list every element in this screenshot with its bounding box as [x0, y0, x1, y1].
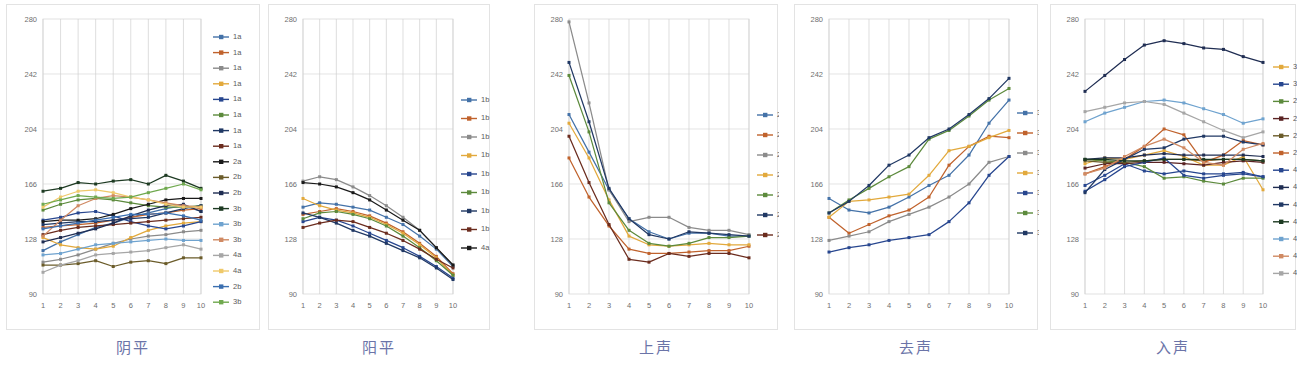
series-marker	[1143, 148, 1146, 151]
series-marker	[318, 175, 321, 178]
legend-entry[interactable]: 3a	[1017, 148, 1039, 157]
legend-swatch-marker	[467, 135, 471, 139]
legend-label: 4a	[1293, 268, 1297, 277]
legend-entry[interactable]: 2a	[757, 190, 779, 199]
legend-entry[interactable]: 2b	[1273, 114, 1297, 123]
legend-entry[interactable]: 4a	[461, 243, 490, 252]
legend-entry[interactable]: 1b	[461, 169, 489, 178]
legend-entry[interactable]: 4a	[1273, 251, 1297, 260]
legend-entry[interactable]: 2a	[757, 170, 779, 179]
legend-entry[interactable]: 3b	[213, 219, 241, 228]
legend-entry[interactable]: 3b	[213, 297, 241, 306]
y-axis-tick: 128	[284, 235, 297, 244]
legend-entry[interactable]: 4a	[1273, 217, 1297, 226]
series-marker	[1202, 161, 1205, 164]
legend-entry[interactable]: 4a	[1273, 165, 1297, 174]
legend-entry[interactable]: 3a	[1017, 168, 1039, 177]
legend-entry[interactable]: 4a	[1273, 200, 1297, 209]
legend-entry[interactable]: 2a	[757, 150, 779, 159]
legend-entry[interactable]: 1b	[461, 224, 489, 233]
y-axis-tick: 280	[550, 15, 563, 24]
legend-entry[interactable]: 3b	[213, 204, 241, 213]
series-marker	[402, 232, 405, 235]
series-marker	[568, 20, 571, 23]
legend-entry[interactable]: 1a	[213, 141, 242, 150]
legend-entry[interactable]: 2b	[213, 172, 241, 181]
series-marker	[728, 249, 731, 252]
series-marker	[1103, 112, 1106, 115]
chart-panel-rusheng: 28024220416612890123456789103b3b2b2b2b2b…	[1050, 4, 1296, 330]
legend-entry[interactable]: 1a	[213, 32, 242, 41]
legend-swatch-marker	[219, 144, 223, 148]
series-marker	[302, 181, 305, 184]
x-axis-tick: 10	[449, 301, 457, 310]
legend-entry[interactable]: 4a	[1273, 234, 1297, 243]
series-marker	[708, 252, 711, 255]
series-marker	[94, 188, 97, 191]
legend-entry[interactable]: 1a	[213, 79, 242, 88]
legend-entry[interactable]: 1a	[213, 94, 242, 103]
legend-entry[interactable]: 3a	[1017, 108, 1039, 117]
y-axis-tick: 128	[24, 235, 37, 244]
legend-entry[interactable]: 1b	[461, 150, 489, 159]
legend-entry[interactable]: 1a	[213, 48, 242, 57]
legend-entry[interactable]: 3b	[1273, 79, 1297, 88]
chart-svg-panel-rusheng: 28024220416612890123456789103b3b2b2b2b2b…	[1051, 5, 1297, 331]
legend-entry[interactable]: 2b	[213, 188, 241, 197]
legend-swatch-marker	[219, 284, 223, 288]
legend-entry[interactable]: 4a	[1273, 268, 1297, 277]
legend-entry[interactable]: 1b	[461, 206, 489, 215]
legend-entry[interactable]: 2b	[1273, 148, 1297, 157]
legend-entry[interactable]: 2a	[757, 110, 779, 119]
legend-entry[interactable]: 1b	[461, 95, 489, 104]
series-marker	[182, 256, 185, 259]
series-marker	[147, 239, 150, 242]
legend-entry[interactable]: 2a	[757, 230, 779, 239]
series-marker	[182, 230, 185, 233]
plot-background	[1085, 19, 1263, 294]
series-marker	[182, 217, 185, 220]
legend-entry[interactable]: 3a	[1017, 208, 1039, 217]
y-axis-tick: 242	[810, 70, 823, 79]
series-marker	[94, 243, 97, 246]
legend-entry[interactable]: 2b	[1273, 131, 1297, 140]
series-marker	[42, 227, 45, 230]
legend-entry[interactable]: 1a	[213, 126, 242, 135]
legend-swatch-marker	[1279, 220, 1283, 224]
legend-entry[interactable]: 1b	[461, 132, 489, 141]
series-marker	[402, 235, 405, 238]
legend-swatch-marker	[1279, 237, 1283, 241]
legend-entry[interactable]: 2a	[757, 130, 779, 139]
legend-entry[interactable]: 1a	[213, 63, 242, 72]
legend-swatch-marker	[467, 172, 471, 176]
legend-entry[interactable]: 3a	[1017, 228, 1039, 237]
series-marker	[1242, 172, 1245, 175]
legend-entry[interactable]: 2b	[213, 282, 241, 291]
series-marker	[728, 252, 731, 255]
legend-label: 4a	[233, 266, 242, 275]
legend-swatch-marker	[219, 253, 223, 257]
series-marker	[648, 233, 651, 236]
legend-entry[interactable]: 4a	[213, 266, 242, 275]
legend-entry[interactable]: 1b	[461, 113, 489, 122]
legend-entry[interactable]: 1b	[461, 187, 489, 196]
x-axis-tick: 3	[1122, 301, 1126, 310]
x-axis-tick: 7	[146, 301, 150, 310]
legend-entry[interactable]: 2a	[213, 157, 242, 166]
x-axis-tick: 5	[907, 301, 911, 310]
legend-entry[interactable]: 4a	[1273, 182, 1297, 191]
legend-entry[interactable]: 2b	[1273, 96, 1297, 105]
legend-entry[interactable]: 1a	[213, 110, 242, 119]
legend-entry[interactable]: 3b	[213, 235, 241, 244]
legend-entry[interactable]: 3a	[1017, 128, 1039, 137]
legend-entry[interactable]: 2a	[757, 210, 779, 219]
series-marker	[42, 271, 45, 274]
series-marker	[112, 242, 115, 245]
series-marker	[828, 211, 831, 214]
legend-entry[interactable]: 3a	[1017, 188, 1039, 197]
legend-swatch-marker	[219, 238, 223, 242]
legend-entry[interactable]: 4a	[213, 250, 242, 259]
legend-swatch-marker	[763, 193, 767, 197]
legend-label: 1b	[481, 95, 489, 104]
legend-entry[interactable]: 3b	[1273, 62, 1297, 71]
